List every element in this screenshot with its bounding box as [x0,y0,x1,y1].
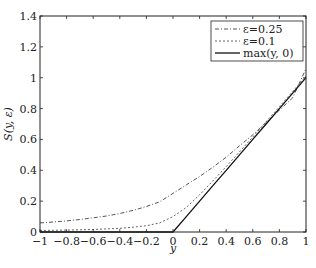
x-tick-label: −0.4 [106,235,133,248]
plot-lines [40,69,306,232]
chart-svg: −1−0.8−0.6−0.4−0.200.20.40.60.81 00.20.4… [0,0,316,268]
y-tick-label: 1 [30,72,37,85]
series-line [40,78,306,232]
y-tick-label: 0.4 [20,164,38,177]
x-tick-label: −0.8 [53,235,80,248]
x-tick-label: −0.6 [80,235,107,248]
x-tick-label: 1 [303,235,310,248]
x-tick-label: 0.6 [244,235,262,248]
y-tick-label: 0.2 [20,195,38,208]
y-tick-label: 0.8 [20,103,38,116]
x-tick-label: −0.2 [133,235,160,248]
y-tick-label: 0.6 [20,133,38,146]
series-line [40,76,306,230]
legend: ε=0.25 ε=0.1 max(y, 0) [211,21,303,61]
y-axis-label: S(y, ε) [2,107,15,141]
x-tick-label: 0.4 [217,235,235,248]
legend-label-max: max(y, 0) [243,47,294,60]
series-line [40,69,306,223]
x-tick-label: 0.2 [191,235,209,248]
y-tick-label: 0 [30,226,37,239]
y-tick-label: 1.2 [20,41,38,54]
x-axis-label: y [169,242,177,255]
x-tick-label: 0.8 [271,235,289,248]
y-tick-label: 1.4 [20,10,38,23]
